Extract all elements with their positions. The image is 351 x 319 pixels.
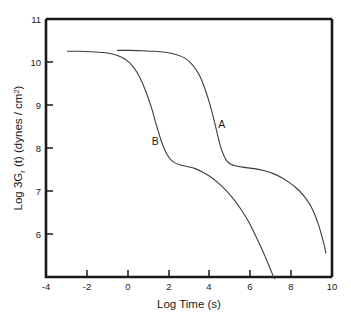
x-tick-label-2: 2	[166, 281, 171, 292]
x-tick-label-4: 4	[206, 281, 211, 292]
x-tick-label-neg4: -4	[42, 281, 50, 292]
x-axis-tick-labels: -4 -2 0 2 4 6 8 10	[42, 281, 338, 292]
y-tick-label-6: 6	[36, 229, 41, 240]
x-tick-label-6: 6	[247, 281, 252, 292]
y-tick-label-9: 9	[36, 100, 41, 111]
x-tick-label-8: 8	[288, 281, 293, 292]
x-tick-label-neg2: -2	[83, 281, 91, 292]
y-tick-label-11: 11	[31, 14, 41, 25]
y-axis-title-close: )	[12, 85, 24, 89]
y-tick-label-10: 10	[30, 57, 41, 68]
curve-label-b: B	[152, 135, 159, 147]
y-axis-title-rest: (t) (dynes / cm	[12, 94, 24, 171]
y-tick-label-7: 7	[36, 186, 41, 197]
x-tick-label-10: 10	[327, 281, 338, 292]
y-tick-label-8: 8	[36, 143, 41, 154]
y-axis-title: Log 3Gr (t) (dynes / cm2)	[12, 85, 27, 210]
data-curve-b	[67, 51, 274, 279]
y-axis-tick-labels: 11 10 9 8 7 6	[30, 14, 41, 240]
x-axis-title: Log Time (s)	[157, 298, 221, 310]
data-series-group	[67, 50, 325, 278]
chart-plot-area: 11 10 9 8 7 6 -4 -2 0 2 4 6 8 10	[0, 0, 351, 319]
y-axis-title-main: Log 3G	[12, 173, 24, 211]
data-curve-a	[118, 50, 326, 253]
x-tick-label-0: 0	[125, 281, 130, 292]
curve-label-a: A	[218, 118, 225, 130]
chart-figure: 11 10 9 8 7 6 -4 -2 0 2 4 6 8 10	[0, 0, 351, 319]
axis-frame	[46, 19, 332, 277]
